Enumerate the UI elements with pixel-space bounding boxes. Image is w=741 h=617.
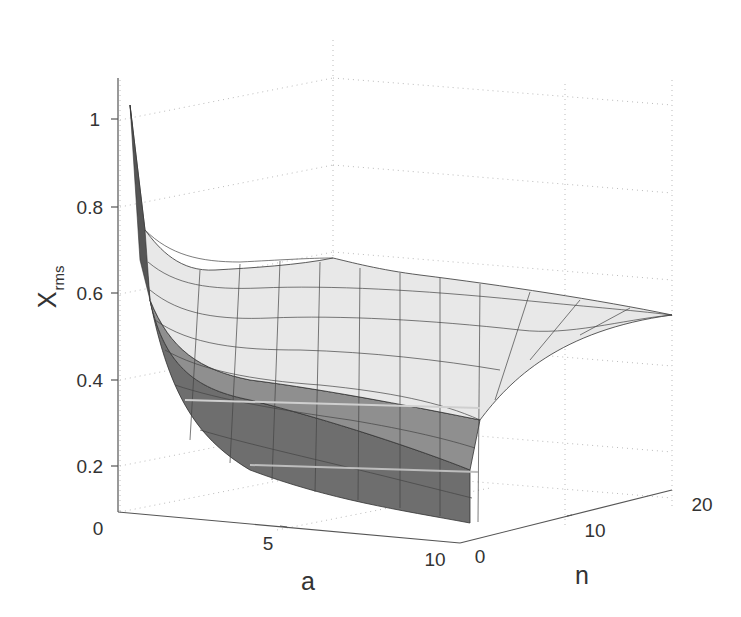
svg-text:X: X [33,291,61,308]
y-tick-label: 10 [584,520,605,541]
z-tick-label: 1 [89,109,100,130]
y-tick-label: 20 [691,494,712,515]
z-axis [111,78,118,512]
z-tick-label: 0.2 [77,456,103,477]
y-axis-label: n [575,561,589,589]
x-tick-label: 0 [93,518,104,539]
surface-spike [130,105,150,300]
x-tick-label: 5 [263,533,274,554]
surface-plot: 1 0.8 0.6 0.4 0.2 X rms 0 5 10 a 0 10 20… [0,0,741,617]
z-axis-label: X rms [33,266,67,309]
x-tick-label: 10 [424,549,445,570]
svg-text:rms: rms [50,266,67,291]
y-tick-label: 0 [475,546,486,567]
x-axis-label: a [301,567,315,595]
z-tick-label: 0.6 [77,283,103,304]
z-tick-label: 0.4 [77,370,104,391]
surface [130,105,672,523]
z-tick-labels: 1 0.8 0.6 0.4 0.2 [77,109,104,477]
z-tick-label: 0.8 [77,197,103,218]
